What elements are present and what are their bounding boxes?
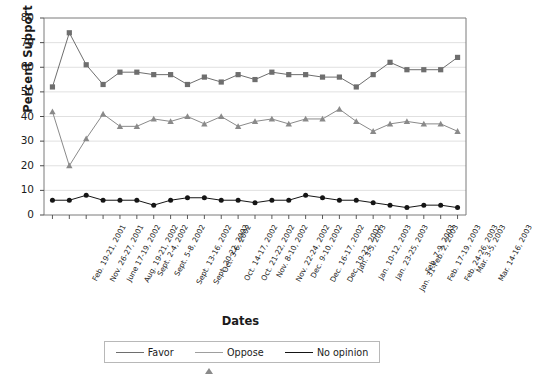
favor-series-icon: [116, 347, 144, 357]
legend-item-favor: Favor: [116, 347, 174, 358]
legend-label-no-opinion: No opinion: [317, 347, 368, 358]
legend-item-no-opinion: No opinion: [285, 347, 368, 358]
legend-label-oppose: Oppose: [227, 347, 264, 358]
no-opinion-series-icon: [285, 347, 313, 357]
legend-label-favor: Favor: [148, 347, 174, 358]
oppose-series-icon: [195, 347, 223, 357]
legend-item-oppose: Oppose: [195, 347, 264, 358]
chart-legend: Favor Oppose No opinion: [104, 341, 380, 363]
